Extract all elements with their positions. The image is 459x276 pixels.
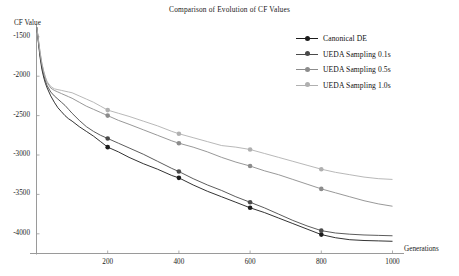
series-marker [248,164,253,169]
x-tick-label: 800 [306,258,336,266]
legend-item-canonical-de[interactable]: Canonical DE [296,31,456,47]
legend-marker-icon [296,65,318,75]
series-marker [177,131,182,136]
legend-item-ueda-05s[interactable]: UEDA Sampling 0.5s [296,62,456,78]
legend-item-ueda-10s[interactable]: UEDA Sampling 1.0s [296,78,456,94]
series-marker [319,232,324,237]
legend-marker-icon [296,34,318,44]
series-marker [248,206,253,211]
chart-container: Comparison of Evolution of CF Values CF … [0,0,459,276]
y-tick-label: -3500 [4,189,30,197]
legend-item-ueda-01s[interactable]: UEDA Sampling 0.1s [296,47,456,63]
legend-marker-icon [296,49,318,59]
series-marker [248,147,253,152]
y-tick-label: -2000 [4,71,30,79]
legend-item-label: UEDA Sampling 0.1s [323,50,391,59]
legend-item-label: UEDA Sampling 0.5s [323,65,391,74]
series-marker [177,176,182,181]
series-marker [105,145,110,150]
legend-item-label: UEDA Sampling 1.0s [323,81,391,90]
y-tick-label: -3000 [4,150,30,158]
series-marker [177,141,182,146]
y-tick-label: -2500 [4,111,30,119]
series-marker [177,169,182,174]
y-tick-label: -1500 [4,32,30,40]
x-tick-label: 200 [93,258,123,266]
chart-legend: Canonical DE UEDA Sampling 0.1s UEDA Sam… [296,31,456,93]
x-tick-label: 400 [164,258,194,266]
y-tick-label: -4000 [4,229,30,237]
series-marker [248,200,253,205]
series-marker [319,167,324,172]
series-marker [105,108,110,113]
series-marker [105,113,110,118]
legend-item-label: Canonical DE [323,34,367,43]
x-tick-label: 600 [235,258,265,266]
x-tick-label: 1000 [378,258,408,266]
series-marker [105,136,110,141]
legend-marker-icon [296,80,318,90]
series-marker [319,187,324,192]
series-marker [319,228,324,233]
